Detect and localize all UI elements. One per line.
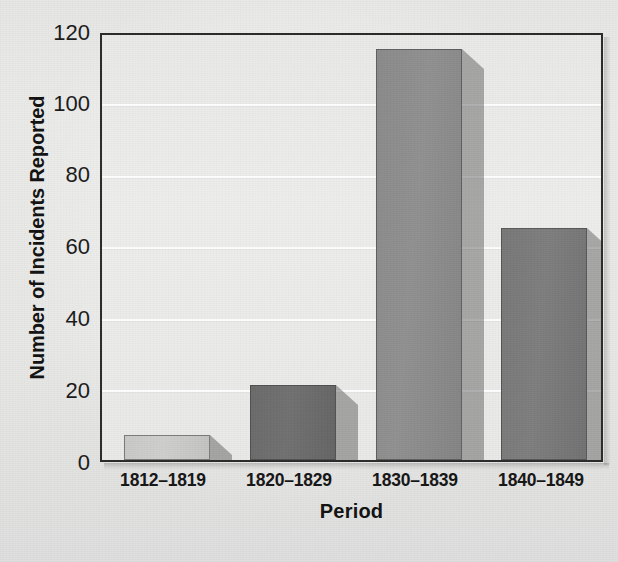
bar-drop-shadow: [210, 435, 232, 460]
bar-1812-1819[interactable]: [124, 435, 210, 460]
bar-1820-1829[interactable]: [250, 385, 336, 460]
plot-area: [100, 33, 603, 462]
right-edge-scan-shadow: [604, 37, 611, 465]
bar-face: [501, 228, 587, 460]
x-axis-tick-label-1812-1819: 1812–1819: [100, 470, 226, 491]
y-axis-tick-label-120: 120: [18, 22, 90, 44]
x-axis-title: Period: [100, 500, 603, 523]
bar-1830-1839[interactable]: [376, 49, 462, 460]
y-axis-tick-label-0: 0: [18, 452, 90, 474]
bar-1840-1849[interactable]: [501, 228, 587, 460]
gridline-80: [102, 176, 601, 178]
plot-inner: [102, 35, 601, 460]
bar-drop-shadow: [462, 49, 484, 460]
bar-drop-shadow: [587, 228, 603, 460]
bar-face: [250, 385, 336, 460]
x-axis-tick-label-1830-1839: 1830–1839: [352, 470, 478, 491]
bar-drop-shadow: [336, 385, 358, 460]
bar-face: [124, 435, 210, 460]
x-axis-tick-label-1840-1849: 1840–1849: [478, 470, 604, 491]
x-axis-tick-label-1820-1829: 1820–1829: [226, 470, 352, 491]
bar-face: [376, 49, 462, 460]
y-axis-title: Number of Incidents Reported: [26, 58, 49, 418]
bar-chart-figure: 120 100 80 60 40 20 0 Number of Incident…: [0, 0, 618, 562]
gridline-100: [102, 104, 601, 106]
baseline-scan-shadow: [104, 463, 609, 470]
